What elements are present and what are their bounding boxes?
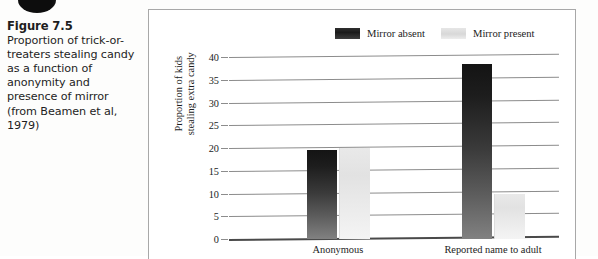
gridline xyxy=(229,122,559,126)
plot-wrapper: Proportion of kids stealing extra candy … xyxy=(149,10,576,259)
page-bullet-decoration xyxy=(18,0,56,13)
x-axis-tick-label: Reported name to adult xyxy=(444,244,541,255)
y-axis-tick-label: 15 xyxy=(193,165,219,176)
y-axis-tick-label: 5 xyxy=(193,211,219,222)
y-axis-tick-mark xyxy=(221,194,228,195)
figure-caption-body: Proportion of trick-or-treaters stealing… xyxy=(7,34,141,133)
y-axis-tick-mark xyxy=(221,148,228,149)
y-axis-tick-label: 0 xyxy=(193,234,219,245)
y-axis-tick-label: 35 xyxy=(193,74,219,85)
bar-mirror-absent-group-1 xyxy=(307,150,337,239)
y-axis-tick-mark xyxy=(221,171,228,172)
y-axis-tick-mark xyxy=(221,80,228,81)
bar-mirror-present-group-1 xyxy=(339,148,370,239)
y-axis-title-line1: Proportion of kids xyxy=(173,24,185,164)
figure-caption: Figure 7.5 Proportion of trick-or-treate… xyxy=(7,19,141,133)
y-axis-tick-label: 40 xyxy=(193,52,219,63)
figure-caption-title: Figure 7.5 xyxy=(7,19,141,33)
bar-mirror-present-group-2 xyxy=(494,194,525,240)
y-axis-tick-mark xyxy=(221,216,228,217)
y-axis-tick-label: 25 xyxy=(193,120,219,131)
y-axis-tick-label: 30 xyxy=(193,97,219,108)
bar-mirror-absent-group-2 xyxy=(462,64,492,239)
y-axis-tick-mark xyxy=(221,125,228,126)
y-axis-tick-mark xyxy=(221,239,228,240)
x-axis-tick-label: Anonymous xyxy=(312,244,363,255)
gridline xyxy=(229,99,559,103)
gridline xyxy=(229,77,559,81)
y-axis-tick-mark xyxy=(221,57,228,58)
plot-area xyxy=(229,57,559,239)
y-axis-tick-label: 20 xyxy=(193,143,219,154)
figure-frame: Mirror absent Mirror present Proportion … xyxy=(148,9,576,259)
y-axis-tick-label: 10 xyxy=(193,188,219,199)
gridline xyxy=(229,54,559,58)
y-axis-tick-mark xyxy=(221,103,228,104)
x-axis-tick-labels: AnonymousReported name to adult xyxy=(229,244,559,259)
y-axis-tick-labels: 4035302520151050 xyxy=(191,57,219,239)
gridline xyxy=(229,168,559,172)
gridline xyxy=(229,145,559,149)
